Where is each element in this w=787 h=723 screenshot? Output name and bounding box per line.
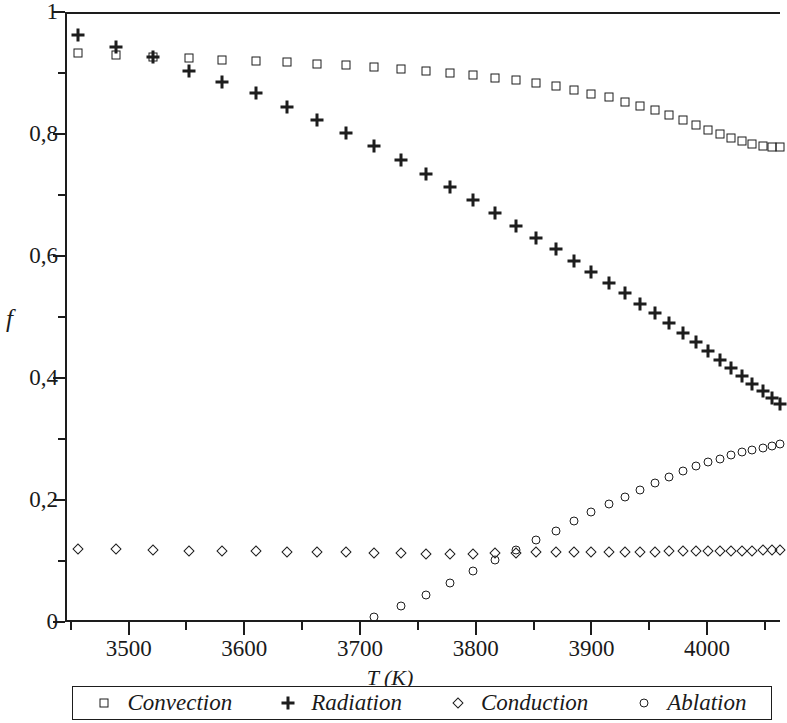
- y-tick-label: 1: [47, 0, 59, 23]
- data-point-ablation: [421, 590, 430, 599]
- data-point-radiation: [367, 140, 380, 153]
- x-tick-major: [706, 622, 708, 635]
- data-point-convection: [218, 55, 227, 64]
- legend-item-conduction[interactable]: Conduction: [451, 690, 588, 716]
- square-icon-glyph: [100, 699, 109, 708]
- data-point-convection: [491, 73, 500, 82]
- x-tick-major: [243, 622, 245, 635]
- data-point-convection: [446, 69, 455, 78]
- data-point-convection: [396, 64, 405, 73]
- data-point-convection: [184, 54, 193, 63]
- circle-icon-glyph: [640, 699, 649, 708]
- data-point-radiation: [467, 194, 480, 207]
- data-point-ablation: [678, 467, 687, 476]
- y-tick-minor: [58, 72, 65, 74]
- data-point-ablation: [587, 508, 596, 517]
- data-point-radiation: [340, 127, 353, 140]
- data-point-radiation: [146, 51, 159, 64]
- circle-icon: [637, 696, 651, 710]
- y-tick-minor: [58, 194, 65, 196]
- x-tick-label: 3800: [453, 637, 499, 660]
- data-point-convection: [570, 86, 579, 95]
- y-tick-minor: [58, 316, 65, 318]
- y-axis-title: f: [6, 305, 13, 333]
- data-point-convection: [369, 62, 378, 71]
- chart-legend: ConvectionRadiationConductionAblation: [72, 686, 772, 720]
- x-tick-minor: [648, 622, 650, 630]
- y-tick-label: 0: [47, 610, 59, 633]
- data-point-radiation: [510, 219, 523, 232]
- data-point-convection: [469, 71, 478, 80]
- data-point-convection: [342, 61, 351, 70]
- data-point-convection: [512, 76, 521, 85]
- data-point-radiation: [419, 167, 432, 180]
- data-point-radiation: [549, 243, 562, 256]
- data-point-ablation: [776, 440, 785, 449]
- data-point-radiation: [634, 297, 647, 310]
- data-point-radiation: [249, 87, 262, 100]
- data-point-convection: [758, 141, 767, 150]
- data-point-convection: [421, 66, 430, 75]
- x-tick-minor: [185, 622, 187, 630]
- x-tick-major: [475, 622, 477, 635]
- data-point-ablation: [469, 567, 478, 576]
- data-point-convection: [604, 93, 613, 102]
- x-tick-minor: [70, 622, 72, 630]
- data-point-convection: [715, 130, 724, 139]
- x-tick-minor: [764, 622, 766, 630]
- data-point-ablation: [446, 578, 455, 587]
- data-point-convection: [737, 137, 746, 146]
- data-point-ablation: [748, 445, 757, 454]
- x-tick-label: 3600: [221, 637, 267, 660]
- data-point-radiation: [689, 336, 702, 349]
- square-icon: [97, 696, 111, 710]
- data-point-radiation: [489, 207, 502, 220]
- data-point-radiation: [585, 265, 598, 278]
- data-point-ablation: [636, 485, 645, 494]
- plus-icon: [281, 696, 295, 710]
- data-point-radiation: [529, 231, 542, 244]
- y-tick-label: 0,4: [29, 366, 58, 389]
- diamond-icon-glyph: [452, 697, 463, 708]
- x-tick-label: 3900: [568, 637, 614, 660]
- data-point-radiation: [71, 28, 84, 41]
- diamond-icon: [451, 696, 465, 710]
- legend-label: Ablation: [667, 690, 746, 716]
- data-point-radiation: [602, 276, 615, 289]
- data-point-ablation: [727, 451, 736, 460]
- data-point-radiation: [568, 254, 581, 267]
- data-point-radiation: [662, 317, 675, 330]
- legend-item-ablation[interactable]: Ablation: [637, 690, 746, 716]
- data-point-convection: [73, 49, 82, 58]
- x-tick-label: 3500: [106, 637, 152, 660]
- y-tick-label: 0,6: [29, 244, 58, 267]
- data-point-convection: [283, 58, 292, 67]
- data-point-radiation: [444, 181, 457, 194]
- data-point-ablation: [620, 492, 629, 501]
- legend-label: Convection: [127, 690, 232, 716]
- plus-icon-glyph: [282, 697, 295, 710]
- data-point-radiation: [216, 76, 229, 89]
- legend-item-radiation[interactable]: Radiation: [281, 690, 402, 716]
- data-point-convection: [636, 101, 645, 110]
- data-point-radiation: [649, 307, 662, 320]
- data-point-ablation: [491, 556, 500, 565]
- data-point-convection: [678, 115, 687, 124]
- legend-label: Radiation: [311, 690, 402, 716]
- data-point-ablation: [531, 536, 540, 545]
- data-point-ablation: [691, 462, 700, 471]
- data-point-convection: [551, 82, 560, 91]
- data-point-ablation: [758, 443, 767, 452]
- y-tick-label: 0,2: [29, 488, 58, 511]
- x-tick-minor: [533, 622, 535, 630]
- data-point-convection: [664, 111, 673, 120]
- legend-item-convection[interactable]: Convection: [97, 690, 232, 716]
- data-point-radiation: [394, 154, 407, 167]
- data-point-radiation: [676, 326, 689, 339]
- data-point-convection: [620, 97, 629, 106]
- data-point-ablation: [551, 526, 560, 535]
- data-point-ablation: [396, 602, 405, 611]
- data-point-radiation: [311, 113, 324, 126]
- y-tick-minor: [58, 560, 65, 562]
